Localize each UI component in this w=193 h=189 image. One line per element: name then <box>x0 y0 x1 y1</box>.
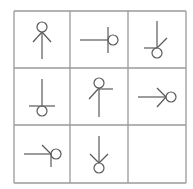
grid-cells <box>24 21 176 173</box>
glyph-stroke <box>33 32 42 42</box>
glyph-stroke <box>157 97 166 107</box>
glyph-circle-icon <box>166 92 176 102</box>
glyph-circle-icon <box>94 163 104 173</box>
cell-r2-c2-glyph <box>89 78 113 117</box>
cell-r1-c1-glyph <box>33 22 51 59</box>
glyph-stroke <box>42 32 51 42</box>
glyph-circle-icon <box>37 106 47 116</box>
glyph-circle-icon <box>51 149 61 159</box>
glyph-circle-icon <box>152 48 162 58</box>
glyph-circle-icon <box>94 78 104 88</box>
cell-r3-c2-glyph <box>90 136 108 173</box>
cell-r2-c1-glyph <box>29 79 55 116</box>
symbol-matrix-puzzle <box>0 0 193 189</box>
glyph-stroke <box>90 154 99 163</box>
glyph-stroke <box>89 88 99 99</box>
cell-r1-c2-glyph <box>80 27 118 53</box>
cell-r1-c3-glyph <box>144 21 167 58</box>
glyph-stroke <box>99 154 108 163</box>
glyph-circle-icon <box>108 35 118 45</box>
glyph-stroke <box>157 88 166 97</box>
glyph-stroke <box>42 145 51 154</box>
cell-r3-c1-glyph <box>24 145 61 167</box>
glyph-circle-icon <box>37 22 47 32</box>
cell-r2-c3-glyph <box>138 88 176 107</box>
glyph-stroke <box>157 38 167 48</box>
